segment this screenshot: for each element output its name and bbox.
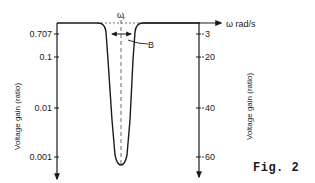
- omega0-subscript: r: [123, 15, 125, 21]
- tick-001: 0.01: [34, 103, 52, 113]
- bandwidth-label: B: [148, 40, 154, 50]
- tick-3db: 3: [205, 29, 210, 39]
- notch-filter-chart: 0.707 0.1 0.01 0.001 3 20 40 60 ω rad/s …: [0, 0, 315, 183]
- tick-60db: 60: [205, 152, 215, 162]
- left-axis-title: Voltage gain (ratio): [13, 83, 22, 150]
- tick-40db: 40: [205, 103, 215, 113]
- tick-0001: 0.001: [29, 152, 52, 162]
- bandwidth-leader: [128, 40, 148, 44]
- tick-0707: 0.707: [29, 29, 52, 39]
- figure-label: Fig. 2: [253, 161, 299, 175]
- tick-20db: 20: [205, 52, 215, 62]
- gain-curve: [57, 23, 200, 165]
- x-axis-label: ω rad/s: [226, 19, 256, 29]
- right-axis-title: Voltage gain (ratio): [245, 73, 254, 140]
- right-tick-dashes: [202, 34, 204, 157]
- tick-01: 0.1: [39, 52, 52, 62]
